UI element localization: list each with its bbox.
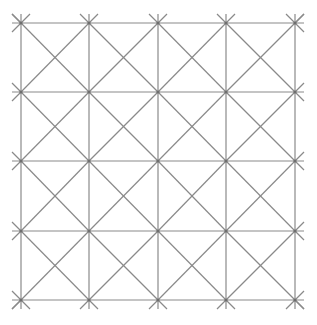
grid-node xyxy=(87,90,90,93)
diagonal-stub xyxy=(12,83,21,92)
diagonal-stub xyxy=(295,23,304,32)
diagonal-stub xyxy=(80,14,89,23)
diagonal-stub xyxy=(158,300,167,309)
grid-node xyxy=(156,229,159,232)
diagonal-stub xyxy=(12,14,21,23)
diagonal-stub xyxy=(295,83,304,92)
diagonal-stub xyxy=(295,152,304,161)
grid-node xyxy=(156,21,159,24)
lattice-svg xyxy=(0,0,317,325)
diagonal-stub xyxy=(12,152,21,161)
diagonal-stub xyxy=(12,92,21,101)
grid-node xyxy=(87,159,90,162)
diagonal-stub xyxy=(217,300,226,309)
diagonal-stub xyxy=(89,14,98,23)
diagonal-stub xyxy=(12,231,21,240)
diagonal-stub xyxy=(12,300,21,309)
diagonal-stub xyxy=(295,231,304,240)
diagonal-stub xyxy=(12,222,21,231)
grid-node xyxy=(224,229,227,232)
diagonal-stub xyxy=(217,14,226,23)
diagonal-stub xyxy=(226,300,235,309)
diagonal-stub xyxy=(149,14,158,23)
diagonal-stub xyxy=(21,300,30,309)
diagonal-stub xyxy=(295,222,304,231)
diagonal-stub xyxy=(12,291,21,300)
diagonal-stub xyxy=(89,300,98,309)
grid-node xyxy=(293,159,296,162)
grid-node xyxy=(87,21,90,24)
diagonal-stub xyxy=(149,300,158,309)
diagonal-stub xyxy=(286,300,295,309)
grid-node xyxy=(293,229,296,232)
diagonal-stub xyxy=(295,300,304,309)
diagonal-stub xyxy=(295,14,304,23)
diagonal-stub xyxy=(295,161,304,170)
grid-node xyxy=(19,298,22,301)
grid-node xyxy=(19,21,22,24)
grid-node xyxy=(293,90,296,93)
grid-node xyxy=(224,21,227,24)
grid-node xyxy=(19,90,22,93)
diagonal-stub xyxy=(21,14,30,23)
diagonal-stub xyxy=(12,161,21,170)
grid-node xyxy=(224,90,227,93)
grid-node xyxy=(87,298,90,301)
diagonal-stub xyxy=(226,14,235,23)
diagonal-stub xyxy=(80,300,89,309)
grid-node xyxy=(19,229,22,232)
grid-node xyxy=(156,90,159,93)
diagonal-stub xyxy=(295,291,304,300)
diagonal-stub xyxy=(12,23,21,32)
grid-node xyxy=(293,298,296,301)
grid-node xyxy=(19,159,22,162)
grid-node xyxy=(293,21,296,24)
diagonal-stub xyxy=(286,14,295,23)
diagonal-stub xyxy=(158,14,167,23)
grid-node xyxy=(224,298,227,301)
grid-node xyxy=(156,298,159,301)
grid-node xyxy=(224,159,227,162)
grid-node xyxy=(87,229,90,232)
diagonal-stub xyxy=(295,92,304,101)
lattice-diagram xyxy=(0,0,317,325)
grid-node xyxy=(156,159,159,162)
